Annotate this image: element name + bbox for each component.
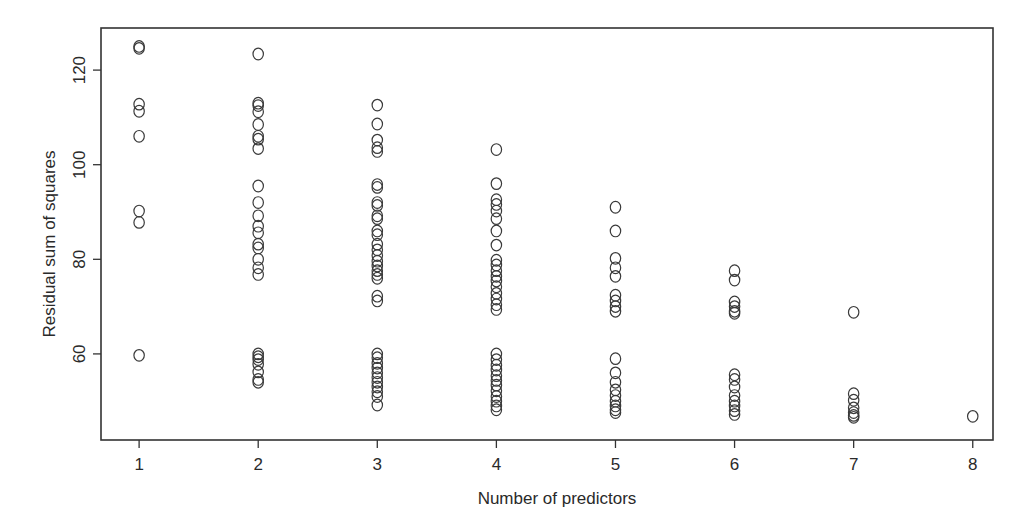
- data-point: [372, 213, 382, 225]
- data-point: [610, 271, 620, 283]
- y-tick-label: 60: [70, 344, 89, 363]
- data-point: [848, 306, 858, 318]
- data-point: [968, 411, 978, 423]
- x-axis-title: Number of predictors: [478, 489, 637, 508]
- data-point: [134, 131, 144, 143]
- y-axis-title: Residual sum of squares: [40, 150, 59, 337]
- x-tick-label: 6: [730, 455, 739, 474]
- data-point: [372, 99, 382, 111]
- x-tick-label: 4: [492, 455, 501, 474]
- data-point: [491, 178, 501, 190]
- data-point: [253, 374, 263, 386]
- scatter-chart: 12345678 6080100120 Number of predictors…: [0, 0, 1035, 528]
- data-point: [253, 227, 263, 239]
- data-point: [253, 48, 263, 60]
- plot-frame: [101, 28, 993, 440]
- data-point: [134, 98, 144, 110]
- data-point: [253, 180, 263, 192]
- data-point: [134, 105, 144, 117]
- data-point: [491, 213, 501, 225]
- data-point: [610, 407, 620, 419]
- x-tick-label: 3: [373, 455, 382, 474]
- data-point: [253, 262, 263, 274]
- data-point: [253, 131, 263, 143]
- y-tick-label: 80: [70, 250, 89, 269]
- data-point: [253, 119, 263, 131]
- data-point: [372, 399, 382, 411]
- x-tick-label: 5: [611, 455, 620, 474]
- y-tick-label: 100: [70, 151, 89, 179]
- data-point: [491, 225, 501, 237]
- data-point: [134, 217, 144, 229]
- x-tick-label: 2: [253, 455, 262, 474]
- y-tick-label: 120: [70, 56, 89, 84]
- data-point: [610, 353, 620, 365]
- data-point: [848, 388, 858, 400]
- data-point: [372, 179, 382, 191]
- data-point: [253, 269, 263, 281]
- data-point: [253, 197, 263, 209]
- data-point: [134, 205, 144, 217]
- data-point: [491, 144, 501, 156]
- data-point: [372, 182, 382, 194]
- data-point: [372, 197, 382, 209]
- x-tick-label: 1: [134, 455, 143, 474]
- x-tick-label: 8: [968, 455, 977, 474]
- data-point: [610, 201, 620, 213]
- data-point: [491, 239, 501, 251]
- x-tick-label: 7: [849, 455, 858, 474]
- data-point: [610, 225, 620, 237]
- data-point: [134, 350, 144, 362]
- data-point: [372, 118, 382, 130]
